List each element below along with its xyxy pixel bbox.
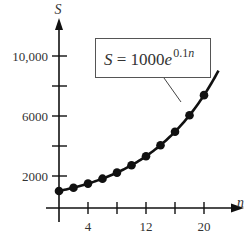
x-axis-label: n xyxy=(237,195,244,210)
y-tick-label: 10,000 xyxy=(12,49,48,64)
data-point xyxy=(185,111,194,120)
y-tick-label: 2000 xyxy=(22,169,48,184)
data-point xyxy=(142,152,151,161)
callout-leader-line xyxy=(164,78,181,102)
data-point xyxy=(156,141,165,150)
data-point xyxy=(171,127,180,136)
exponential-chart: Sn412202000600010,000S = 1000e0.1n xyxy=(0,0,251,235)
data-point xyxy=(55,187,64,196)
x-tick-label: 20 xyxy=(198,219,211,234)
x-tick-label: 4 xyxy=(85,219,92,234)
y-tick-label: 6000 xyxy=(22,109,48,124)
exponential-curve xyxy=(59,71,219,191)
y-axis-label: S xyxy=(55,2,62,17)
data-point xyxy=(84,179,93,188)
data-point xyxy=(127,161,136,170)
data-point xyxy=(98,174,107,183)
data-point xyxy=(200,91,209,100)
y-axis-arrow-icon xyxy=(55,18,63,30)
x-tick-label: 12 xyxy=(140,219,153,234)
data-point xyxy=(69,183,78,192)
data-point xyxy=(113,168,122,177)
